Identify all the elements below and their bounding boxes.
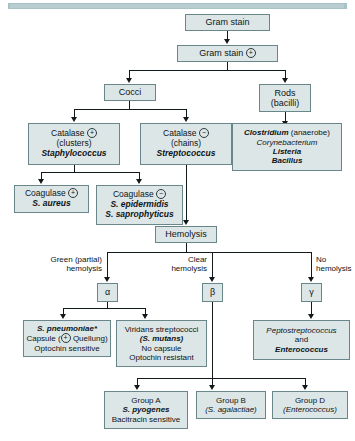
node-rods-organism-list[interactable]: Clostridium (anaerobe) Corynebacterium L… xyxy=(232,123,342,171)
arrowhead-group-d xyxy=(302,385,308,390)
arrowhead-catalase-neg xyxy=(183,117,189,122)
organism-peptostreptococcus: Peptostreptococcus xyxy=(266,326,336,335)
plus-symbol-icon: + xyxy=(68,188,78,198)
edge-alpha-distributor xyxy=(63,308,145,309)
capsule-quellung-prefix: Capsule ( xyxy=(26,334,60,343)
arrowhead-beta xyxy=(209,277,215,282)
plus-symbol-icon: + xyxy=(61,333,71,343)
node-catalase-positive[interactable]: Catalase + (clusters) Staphylococcus xyxy=(28,123,120,165)
edge-drop-beta xyxy=(212,252,213,278)
arrowhead-gamma xyxy=(308,277,314,282)
minus-symbol-icon: − xyxy=(199,128,209,138)
edge-drop-alpha xyxy=(107,252,108,278)
node-coagulase-negative[interactable]: Coagulase − S. epidermidis S. saprophyti… xyxy=(96,185,183,225)
node-group-b[interactable]: Group B (S. agalactiae) xyxy=(196,391,266,419)
plus-symbol-icon: + xyxy=(87,128,97,138)
organism-viridans: Viridans streptococci xyxy=(125,325,199,334)
organism-corynebacterium: Corynebacterium xyxy=(257,138,318,147)
edge-hemolysis-stem xyxy=(186,243,187,252)
arrowhead-group-b xyxy=(209,385,215,390)
node-gram-stain[interactable]: Gram stain xyxy=(185,14,270,31)
optochin-resistant-text: Optochin resistant xyxy=(129,353,193,362)
node-viridans-streptococci[interactable]: Viridans streptococci (S. mutans) No cap… xyxy=(116,320,207,367)
organism-s-mutans: (S. mutans) xyxy=(140,334,184,343)
node-rods-sublabel: (bacilli) xyxy=(271,98,300,108)
arrowhead-coagulase-pos xyxy=(38,179,44,184)
node-catalase-negative[interactable]: Catalase − (chains) Streptococcus xyxy=(140,123,232,165)
edge-label-no-hemolysis: No hemolysis xyxy=(316,255,355,273)
organism-s-saprophyticus: S. saprophyticus xyxy=(105,210,174,220)
group-b-label: Group B xyxy=(216,396,246,405)
organism-enterococcus: Enterococcus xyxy=(275,345,328,354)
node-gram-stain-positive[interactable]: Gram stain + xyxy=(177,45,278,62)
node-alpha-label: α xyxy=(105,287,110,297)
edge-drop-gamma xyxy=(311,252,312,278)
bacitracin-sensitive-text: Bacitracin sensitive xyxy=(112,415,180,424)
organism-clostridium-note: (anaerobe) xyxy=(289,128,330,137)
edge-staph-stem xyxy=(74,165,75,172)
minus-symbol-icon: − xyxy=(156,189,166,199)
flowchart-canvas: Gram stain Gram stain + Cocci Rods (baci… xyxy=(0,0,355,441)
edge-strep-to-hemolysis xyxy=(186,165,187,221)
organism-s-pyogenes: S. pyogenes xyxy=(122,405,169,414)
arrowhead-cocci xyxy=(126,78,132,83)
edge-beta-to-groups xyxy=(212,302,213,378)
group-d-label: Group D xyxy=(295,396,325,405)
node-peptostreptococcus-enterococcus[interactable]: Peptostreptococcus and Enterococcus xyxy=(253,320,350,360)
organism-bacillus: Bacillus xyxy=(272,156,303,165)
edge-staph-distributor xyxy=(41,172,139,173)
arrowhead-pepto xyxy=(308,314,314,319)
node-group-d[interactable]: Group D (Enterococcus) xyxy=(272,391,348,419)
node-gamma-hemolysis[interactable]: γ xyxy=(301,283,322,302)
node-cocci-label: Cocci xyxy=(119,87,142,97)
organism-s-agalactiae: (S. agalactiae) xyxy=(205,405,257,414)
edge-hemolysis-distributor xyxy=(107,252,311,253)
node-gamma-label: γ xyxy=(309,287,314,297)
organism-s-aureus: S. aureus xyxy=(32,199,70,209)
node-hemolysis[interactable]: Hemolysis xyxy=(155,226,217,243)
node-catalase-positive-genus: Staphylococcus xyxy=(41,149,106,159)
edge-cocci-distributor xyxy=(74,109,186,110)
arrowhead-grampos xyxy=(224,39,230,44)
group-a-label: Group A xyxy=(131,396,160,405)
arrowhead-alpha xyxy=(104,277,110,282)
edge-grampos-stem xyxy=(227,62,228,70)
edge-groups-distributor xyxy=(137,378,305,379)
arrowhead-catalase-pos xyxy=(71,117,77,122)
arrowhead-coagulase-neg xyxy=(136,179,142,184)
node-beta-hemolysis[interactable]: β xyxy=(202,283,223,302)
optochin-sensitive-text: Optochin sensitive xyxy=(34,344,99,353)
node-cocci[interactable]: Cocci xyxy=(104,84,156,101)
organism-clostridium: Clostridium xyxy=(244,128,288,137)
conjunction-and: and xyxy=(295,335,308,344)
node-s-pneumoniae[interactable]: S. pneumoniae* Capsule (+ Quellung) Opto… xyxy=(23,320,111,357)
node-rods-label: Rods xyxy=(274,88,295,98)
node-catalase-negative-genus: Streptococcus xyxy=(156,149,215,159)
arrowhead-rods xyxy=(282,78,288,83)
edge-label-clear-hemolysis: Clear hemolysis xyxy=(135,255,207,273)
node-group-a[interactable]: Group A S. pyogenes Bacitracin sensitive xyxy=(104,391,188,429)
edge-cocci-stem xyxy=(129,101,130,109)
node-rods[interactable]: Rods (bacilli) xyxy=(259,84,311,112)
node-coagulase-positive[interactable]: Coagulase + S. aureus xyxy=(14,185,89,213)
edge-label-green-partial-hemolysis: Green (partial) hemolysis xyxy=(22,255,102,273)
capsule-quellung-suffix: Quellung) xyxy=(71,334,108,343)
edge-grampos-distributor xyxy=(129,70,285,71)
arrowhead-pneumoniae xyxy=(60,314,66,319)
node-hemolysis-label: Hemolysis xyxy=(165,229,207,239)
top-decorative-bar-inner xyxy=(10,4,344,8)
node-gram-stain-positive-label: Gram stain xyxy=(199,48,243,58)
node-coagulase-positive-label: Coagulase xyxy=(25,188,66,198)
arrowhead-hemolysis xyxy=(183,220,189,225)
organism-enterococcus-group-d: (Enterococcus) xyxy=(283,405,337,414)
node-alpha-hemolysis[interactable]: α xyxy=(97,283,118,302)
node-gram-stain-label: Gram stain xyxy=(205,17,249,27)
node-catalase-negative-label: Catalase xyxy=(163,128,197,138)
node-beta-label: β xyxy=(210,287,215,297)
plus-symbol-icon: + xyxy=(246,48,256,58)
node-catalase-positive-label: Catalase xyxy=(51,128,85,138)
arrowhead-viridans xyxy=(142,314,148,319)
organism-listeria: Listeria xyxy=(273,147,301,156)
node-coagulase-negative-label: Coagulase xyxy=(113,189,154,199)
no-capsule-text: No capsule xyxy=(141,344,181,353)
